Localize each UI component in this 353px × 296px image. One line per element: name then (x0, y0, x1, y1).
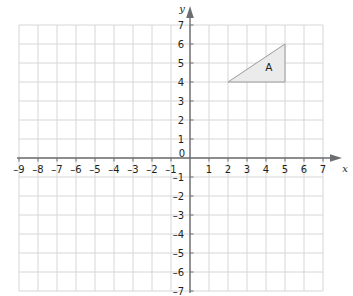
shape-label-a: A (265, 61, 273, 73)
coordinate-grid-svg: A –9–8–7–6–5–4–3–2–11234567–7–6–5–4–3–2–… (0, 0, 353, 296)
x-tick-label: –4 (108, 164, 119, 175)
y-axis-name-label: y (178, 3, 185, 14)
x-tick-label: –2 (146, 164, 157, 175)
x-tick-label: 2 (225, 164, 231, 175)
x-tick-label: 7 (320, 164, 326, 175)
y-tick-label: –4 (173, 229, 184, 240)
y-tick-label: –7 (173, 286, 184, 296)
y-tick-label: 1 (178, 134, 184, 145)
x-tick-label: –8 (32, 164, 43, 175)
y-tick-label: 7 (178, 20, 184, 31)
x-tick-label: –9 (13, 164, 24, 175)
y-tick-label: –6 (173, 267, 184, 278)
x-tick-label: –7 (51, 164, 62, 175)
x-tick-label: 1 (206, 164, 212, 175)
x-axis-arrowhead (330, 154, 342, 162)
y-tick-label: –2 (173, 191, 184, 202)
y-tick-label: 3 (178, 96, 184, 107)
origin-label: 0 (179, 148, 185, 159)
x-axis-name-label: x (342, 163, 348, 174)
x-tick-label: 5 (282, 164, 288, 175)
x-tick-label: 6 (301, 164, 307, 175)
y-tick-label: 5 (178, 58, 184, 69)
x-tick-label: –3 (127, 164, 138, 175)
y-axis-arrowhead (186, 6, 194, 18)
y-tick-label: –3 (173, 210, 184, 221)
y-tick-label: 6 (178, 39, 184, 50)
y-tick-label: 2 (178, 115, 184, 126)
coordinate-plane-figure: A –9–8–7–6–5–4–3–2–11234567–7–6–5–4–3–2–… (0, 0, 353, 296)
x-tick-label: –5 (89, 164, 100, 175)
x-tick-label: –6 (70, 164, 81, 175)
x-tick-label: 3 (244, 164, 250, 175)
x-tick-label: 4 (263, 164, 269, 175)
y-tick-label: 4 (178, 77, 184, 88)
y-tick-label: –5 (173, 248, 184, 259)
y-tick-label: –1 (173, 172, 184, 183)
